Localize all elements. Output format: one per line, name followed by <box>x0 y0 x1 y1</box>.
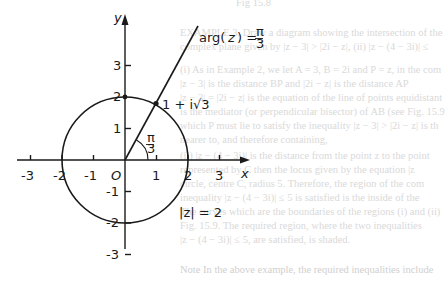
y-tick-label: -3 <box>106 247 119 262</box>
svg-text:z: z <box>227 30 236 45</box>
x-axis-label: x <box>240 166 249 181</box>
origin-label: O <box>111 168 121 183</box>
x-tick-label: -2 <box>53 168 66 183</box>
x-tick-label: 3 <box>215 168 223 183</box>
ray-label: arg( z ) = π 3 <box>199 24 264 51</box>
y-tick-label: 1 <box>113 121 121 136</box>
y-axis-arrow-icon <box>122 14 129 25</box>
point-2i <box>123 95 128 100</box>
svg-text:3: 3 <box>147 141 155 156</box>
y-tick-label: -1 <box>106 184 119 199</box>
y-tick-label: 3 <box>113 58 121 73</box>
svg-text:3: 3 <box>256 36 264 51</box>
y-tick-label: 2 <box>113 89 121 104</box>
x-tick-label: -3 <box>21 168 34 183</box>
svg-text:) =: ) = <box>237 30 257 45</box>
intersection-point <box>153 101 158 106</box>
ray-arg-pi-over-3 <box>125 26 198 160</box>
x-tick-label: 2 <box>184 168 192 183</box>
point-label: 1 + i√3 <box>162 97 210 112</box>
circle-label: |z| = 2 <box>179 205 222 220</box>
x-axis-arrow-icon <box>240 157 250 164</box>
x-tick-label: -1 <box>84 168 97 183</box>
svg-text:arg(: arg( <box>199 30 225 45</box>
x-tick-label: 1 <box>152 168 160 183</box>
angle-label: π 3 <box>146 130 155 156</box>
y-axis-label: y <box>113 10 122 25</box>
y-tick-label: -2 <box>106 215 119 230</box>
